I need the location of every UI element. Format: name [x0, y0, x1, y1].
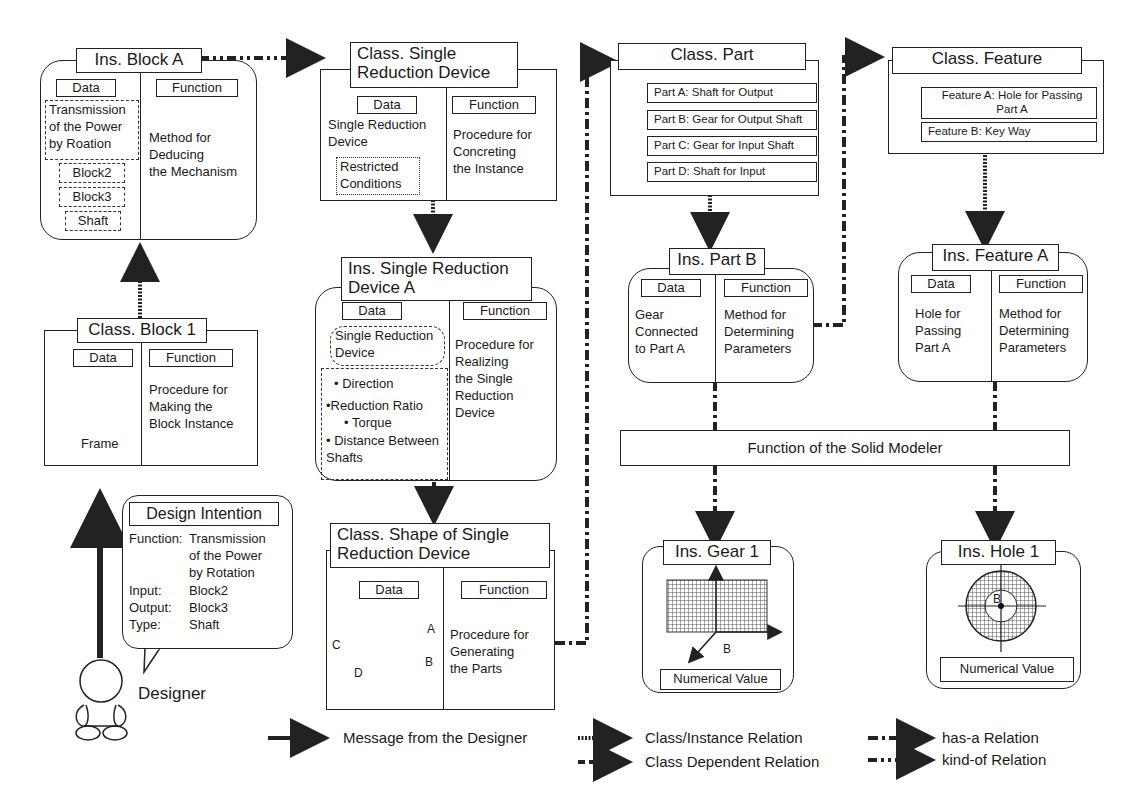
frame-caption: Frame	[81, 435, 119, 452]
has-a-connector	[812, 57, 877, 325]
part-c-item[interactable]: Part C: Gear for Input Shaft	[647, 136, 817, 156]
param-direction: • Direction	[334, 375, 393, 392]
ins-hole-1-title: Ins. Hole 1	[941, 540, 1056, 565]
srd-data-group: Single Reduction Device	[330, 326, 445, 366]
legend-kind-of: kind-of Relation	[942, 751, 1046, 768]
legend-has-a: has-a Relation	[942, 729, 1039, 746]
function-tag: Function	[463, 302, 547, 320]
parameter-list: • Direction •Reduction Ratio • Torque • …	[321, 368, 448, 480]
class-part-box[interactable]: Part A: Shaft for Output Part B: Gear fo…	[610, 60, 819, 196]
feature-a-item[interactable]: Feature A: Hole for Passing Part A	[921, 87, 1097, 119]
ins-srd-a-title: Ins. Single Reduction Device A	[341, 257, 532, 301]
di-value-input: Block2	[189, 582, 228, 599]
data-tag: Data	[641, 279, 701, 297]
data-item-transmission: Transmission of the Power by Roation	[45, 100, 139, 160]
function-tag: Function	[149, 349, 233, 367]
class-srd-title: Class. Single Reduction Device	[350, 42, 518, 88]
function-tag: Function	[156, 79, 238, 97]
ins-srd-a-box[interactable]: Data Function Single Reduction Device • …	[315, 287, 557, 481]
di-value-type: Shaft	[189, 616, 219, 633]
class-shape-title: Class. Shape of Single Reduction Device	[330, 523, 550, 568]
legend-class-dependent: Class Dependent Relation	[645, 753, 819, 770]
function-text: Method for Determining Parameters	[724, 306, 794, 357]
legend-message-from-designer: Message from the Designer	[343, 729, 527, 746]
function-text: Procedure for Realizing the Single Reduc…	[455, 336, 555, 421]
part-a-item[interactable]: Part A: Shaft for Output	[647, 83, 817, 103]
legend-class-instance: Class/Instance Relation	[645, 729, 803, 746]
ins-block-a-box[interactable]: Data Function Transmission of the Power …	[40, 60, 257, 240]
shape-label-b: B	[425, 655, 433, 669]
function-text: Method for Deducing the Mechanism	[149, 129, 254, 180]
function-tag: Function	[452, 96, 536, 114]
data-tag: Data	[911, 275, 971, 293]
design-intention-title: Design Intention	[129, 502, 279, 526]
ins-block-a-title: Ins. Block A	[76, 48, 202, 73]
function-text: Procedure for Generating the Parts	[450, 626, 550, 677]
class-part-title: Class. Part	[618, 43, 806, 70]
function-tag: Function	[724, 279, 808, 297]
restricted-conditions: Restricted Conditions	[336, 157, 420, 195]
data-item-block2: Block2	[59, 163, 125, 183]
data-item-shaft: Shaft	[65, 211, 121, 231]
ins-hole-1-box[interactable]: B Numerical Value	[926, 551, 1081, 689]
param-distance: • Distance Between Shafts	[326, 432, 439, 466]
class-block-1-box[interactable]: Data Function Frame Procedure for Making…	[44, 330, 258, 466]
class-feature-box[interactable]: Feature A: Hole for Passing Part A Featu…	[888, 60, 1104, 154]
has-a-connector	[555, 62, 612, 643]
di-key-type: Type:	[129, 616, 161, 633]
data-text: Gear Connected to Part A	[635, 306, 698, 357]
ins-gear-1-box[interactable]: B Numerical Value	[642, 546, 794, 693]
feature-b-item[interactable]: Feature B: Key Way	[921, 122, 1097, 142]
param-torque: • Torque	[344, 414, 392, 431]
ins-part-b-box[interactable]: Data Function Gear Connected to Part A M…	[628, 268, 814, 383]
class-shape-box[interactable]: Data Function A B C D Procedure for Gene…	[326, 550, 555, 710]
di-key-input: Input:	[129, 582, 162, 599]
gear-axis-label: B	[723, 642, 731, 656]
ins-feature-a-title: Ins. Feature A	[932, 244, 1059, 271]
function-tag: Function	[461, 581, 547, 599]
shape-label-a: A	[427, 622, 435, 636]
function-tag: Function	[999, 275, 1083, 293]
speech-bubble-tail	[144, 648, 160, 672]
hole-axis-label: B	[993, 592, 1001, 606]
shape-label-c: C	[332, 638, 341, 652]
designer-figure-icon	[76, 660, 127, 740]
ins-feature-a-box[interactable]: Data Function Hole for Passing Part A Me…	[898, 252, 1088, 382]
shape-label-d: D	[354, 666, 363, 680]
data-tag: Data	[56, 79, 116, 97]
di-key-output: Output:	[129, 599, 172, 616]
data-tag: Data	[357, 96, 417, 114]
function-text: Procedure for Concreting the Instance	[453, 126, 553, 177]
numerical-value-field[interactable]: Numerical Value	[940, 657, 1074, 682]
data-tag: Data	[359, 581, 419, 599]
class-block-1-title: Class. Block 1	[77, 318, 207, 343]
ins-part-b-title: Ins. Part B	[669, 248, 765, 275]
class-srd-box[interactable]: Data Function Single Reduction Device Re…	[320, 69, 557, 201]
data-text: Single Reduction Device	[328, 116, 426, 150]
di-key-function: Function:	[129, 530, 182, 547]
data-item-block3: Block3	[59, 187, 125, 207]
part-b-item[interactable]: Part B: Gear for Output Shaft	[647, 110, 817, 130]
part-d-item[interactable]: Part D: Shaft for Input	[647, 162, 817, 182]
function-text: Procedure for Making the Block Instance	[149, 381, 254, 432]
di-value-function: Transmission of the Power by Rotation	[189, 530, 266, 581]
di-value-output: Block3	[189, 599, 228, 616]
data-tag: Data	[342, 302, 402, 320]
numerical-value-field[interactable]: Numerical Value	[660, 669, 781, 690]
solid-modeler-bar[interactable]: Function of the Solid Modeler	[620, 430, 1070, 466]
data-tag: Data	[73, 349, 133, 367]
design-intention-bubble: Design Intention Function: Transmission …	[122, 495, 293, 649]
data-text: Hole for Passing Part A	[915, 305, 961, 356]
designer-label: Designer	[138, 684, 206, 704]
param-reduction-ratio: •Reduction Ratio	[326, 397, 423, 414]
class-feature-title: Class. Feature	[892, 47, 1082, 74]
ins-gear-1-title: Ins. Gear 1	[663, 540, 771, 565]
function-text: Method for Determining Parameters	[999, 305, 1069, 356]
